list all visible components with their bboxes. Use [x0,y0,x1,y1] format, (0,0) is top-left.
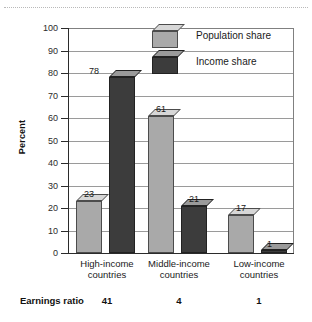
bar-front-face [261,250,287,253]
gridline-30 [68,186,293,187]
value-label-low-income: 1 [267,240,272,249]
category-line-1: Low-income [211,258,307,269]
chart-figure: 100 90 80 70 60 50 40 30 20 10 0 Percent… [0,0,312,322]
legend-label-income-share: Income share [196,56,257,67]
value-label-middle-income: 21 [189,195,199,204]
earnings-ratio-value-high: 41 [87,295,127,306]
y-tick-label-90: 90 [30,47,58,56]
bar-high-income-share [109,77,135,253]
bar-high-population-share [76,201,102,253]
value-label-middle-population: 61 [156,105,166,114]
y-tick-40 [61,163,68,164]
gridline-50 [68,141,293,142]
legend-swatch-income-share-icon [152,50,186,74]
y-tick-label-10: 10 [30,227,58,236]
value-label-high-income: 78 [89,67,99,76]
value-label-low-population: 17 [236,204,246,213]
y-tick-80 [61,73,68,74]
y-tick-10 [61,231,68,232]
gridline-70 [68,96,293,97]
category-line-2: countries [211,269,307,280]
bar-front-face [109,77,135,253]
bar-front-face [76,201,102,253]
y-axis-title: Percent [17,107,27,167]
y-tick-label-100: 100 [30,24,58,33]
legend-label-population-share: Population share [196,30,271,41]
bar-middle-population-share [148,116,174,253]
value-label-high-population: 23 [84,190,94,199]
y-tick-70 [61,96,68,97]
y-tick-label-20: 20 [30,204,58,213]
y-tick-60 [61,118,68,119]
legend-swatch-population-share-icon [152,24,186,48]
y-tick-label-50: 50 [30,137,58,146]
y-tick-label-60: 60 [30,114,58,123]
y-tick-label-30: 30 [30,182,58,191]
y-tick-0 [61,253,68,254]
y-tick-label-80: 80 [30,69,58,78]
bar-front-face [148,116,174,253]
earnings-ratio-label: Earnings ratio [20,295,84,306]
gridline-60 [68,118,293,119]
bar-front-face [228,215,254,253]
y-tick-label-70: 70 [30,92,58,101]
y-tick-label-0: 0 [30,249,58,258]
y-tick-label-40: 40 [30,159,58,168]
y-axis-line [68,28,69,254]
bar-low-population-share [228,215,254,253]
bar-middle-income-share [181,206,207,253]
y-tick-30 [61,186,68,187]
bar-low-income-share [261,250,287,253]
earnings-ratio-value-low: 1 [239,295,279,306]
category-label-low-income: Low-income countries [211,258,307,280]
y-tick-100 [61,28,68,29]
y-tick-50 [61,141,68,142]
x-axis-line [68,253,294,254]
y-tick-90 [61,51,68,52]
top-divider-rule [4,7,308,8]
gridline-40 [68,163,293,164]
y-tick-20 [61,208,68,209]
bar-front-face [181,206,207,253]
earnings-ratio-value-middle: 4 [159,295,199,306]
